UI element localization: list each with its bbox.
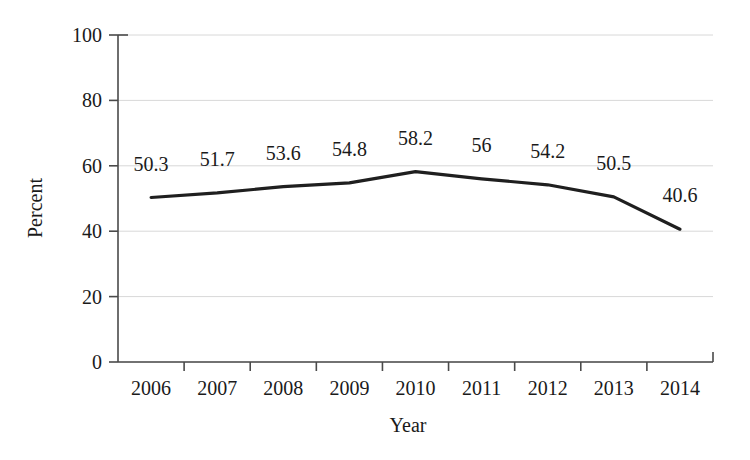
x-tick-label-2012: 2012 [528,377,568,399]
y-tick-label-40: 40 [82,220,102,242]
chart-container: 020406080100 200620072008200920102011201… [0,0,750,460]
x-tick-label-2009: 2009 [329,377,369,399]
point-label-2007: 51.7 [200,148,235,170]
chart-background [0,0,750,460]
point-label-2009: 54.8 [332,138,367,160]
y-tick-label-100: 100 [72,24,102,46]
y-tick-label-80: 80 [82,89,102,111]
point-label-2014: 40.6 [662,184,697,206]
point-label-2012: 54.2 [530,140,565,162]
point-label-2008: 53.6 [266,142,301,164]
x-tick-label-2013: 2013 [594,377,634,399]
point-label-2013: 50.5 [596,152,631,174]
point-label-2011: 56 [472,134,492,156]
x-tick-label-2014: 2014 [660,377,700,399]
point-label-2010: 58.2 [398,127,433,149]
y-tick-label-0: 0 [92,351,102,373]
point-label-2006: 50.3 [134,153,169,175]
y-axis-title: Percent [24,178,46,238]
y-tick-label-20: 20 [82,286,102,308]
x-tick-label-2011: 2011 [462,377,501,399]
x-tick-label-2006: 2006 [131,377,171,399]
line-chart: 020406080100 200620072008200920102011201… [0,0,750,460]
y-tick-label-60: 60 [82,155,102,177]
x-axis-title: Year [390,414,427,436]
x-tick-label-2010: 2010 [396,377,436,399]
x-axis-tick-labels: 200620072008200920102011201220132014 [131,377,700,399]
x-tick-label-2008: 2008 [263,377,303,399]
x-tick-label-2007: 2007 [197,377,237,399]
